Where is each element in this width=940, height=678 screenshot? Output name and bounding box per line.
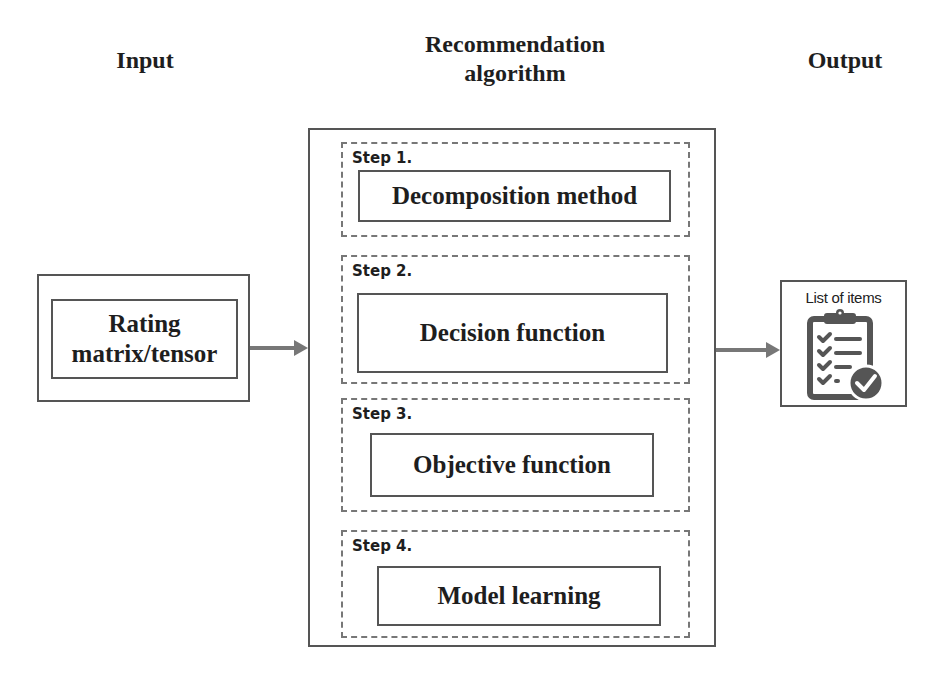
algorithm-title-line1: Recommendation [400,30,630,59]
step-3-label: Step 3. [352,405,412,423]
step-1-decomposition-method: Decomposition method [358,170,671,222]
step-2-label: Step 2. [352,262,412,280]
algorithm-column-title: Recommendation algorithm [400,30,630,88]
output-list-of-items-box: List of items [780,280,907,407]
arrow-head-icon [766,342,780,358]
input-rating-matrix-box: Rating matrix/tensor [51,299,238,379]
step-1-label: Step 1. [352,149,412,167]
step-2-decision-function: Decision function [357,293,668,373]
arrow-input-to-algorithm [250,346,296,350]
algorithm-title-line2: algorithm [400,59,630,88]
step-4-label: Step 4. [352,537,412,555]
step-3-objective-function: Objective function [370,433,654,497]
clipboard-checklist-icon [802,309,892,405]
output-label: List of items [782,289,905,306]
arrow-algorithm-to-output [716,348,768,352]
input-line2: matrix/tensor [72,339,218,369]
arrow-head-icon [294,340,308,356]
step-4-model-learning: Model learning [377,566,661,626]
input-line1: Rating [108,309,180,339]
input-column-title: Input [90,46,200,75]
output-column-title: Output [790,46,900,75]
